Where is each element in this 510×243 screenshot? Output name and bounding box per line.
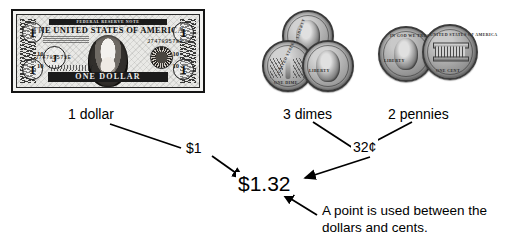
bill-denomination-word: ONE DOLLAR: [48, 72, 168, 82]
bill-country-text: THE UNITED STATES OF AMERICA: [17, 26, 199, 35]
memorial-base: [433, 57, 469, 62]
penny-coin-reverse: UNITED STATES OF AMERICA ONE CENT: [422, 24, 478, 80]
caption-2-pennies: 2 pennies: [388, 106, 449, 122]
line-dimes-to-cents: [313, 122, 353, 148]
bill-microtext-block: [43, 36, 89, 43]
penny-liberty-legend: LIBERTY: [384, 58, 405, 63]
bill-district-number-bottom-left: 10: [37, 62, 44, 69]
dollar-bill-image: FEDERAL RESERVE NOTE THE UNITED STATES O…: [11, 9, 205, 93]
bill-serial-number-top-right: J74789578E: [147, 38, 183, 45]
bill-signature: [49, 65, 93, 71]
lincoln-memorial-icon: [433, 43, 467, 62]
dime-roosevelt-head: [316, 50, 340, 82]
arrow-cents-to-total: [305, 157, 370, 178]
bill-serial-number-bottom-left: J74789578E: [35, 54, 71, 61]
three-dimes-image: LIBERTY UNITED STATES ONE DIME LIBERTY: [262, 10, 354, 98]
dime-coin-right: LIBERTY: [302, 40, 354, 92]
callout-decimal-point-text: A point is used between the dollars and …: [322, 203, 487, 237]
penny-one-cent-legend: ONE CENT: [436, 68, 460, 73]
node-label-cents: 32¢: [351, 139, 378, 155]
caption-3-dimes: 3 dimes: [283, 106, 332, 122]
diagram-root: FEDERAL RESERVE NOTE THE UNITED STATES O…: [0, 0, 510, 243]
arrow-callout-to-decimal-point: [283, 194, 317, 215]
caption-1-dollar: 1 dollar: [68, 106, 114, 122]
line-dollar-to-label: [110, 124, 181, 148]
penny-lincoln-head: [394, 38, 418, 70]
two-pennies-image: IN GOD WE TRUST LIBERTY UNITED STATES OF…: [378, 24, 484, 86]
dollar-bill-inner-frame: FEDERAL RESERVE NOTE THE UNITED STATES O…: [16, 14, 200, 88]
dime-one-dime-legend: ONE DIME: [274, 80, 298, 85]
node-label-one-dollar: $1: [184, 140, 204, 156]
bill-district-number-bottom-right: 10: [173, 62, 180, 69]
bill-treasury-seal: [150, 46, 173, 69]
bill-district-number-top-right: 10: [173, 50, 180, 57]
node-label-total: $1.32: [236, 172, 293, 196]
dime-liberty-legend: LIBERTY: [309, 68, 330, 73]
line-pennies-to-cents: [374, 122, 412, 142]
penny-country-legend: UNITED STATES OF AMERICA: [430, 32, 498, 37]
bill-corner-numeral-top-left: 1: [22, 22, 43, 43]
